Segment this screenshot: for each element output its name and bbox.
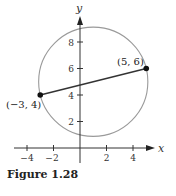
x-axis-label: x [158, 142, 165, 155]
x-tick-label: 4 [130, 153, 136, 163]
y-axis-label: y [75, 2, 83, 15]
x-tick-label: 2 [104, 153, 110, 163]
y-tick-label: 8 [68, 38, 74, 48]
point-a-label: (−3, 4) [6, 99, 41, 110]
chord-segment [40, 69, 146, 96]
x-axis-arrow-icon [146, 145, 155, 151]
x-tick-label: −2 [45, 153, 58, 163]
x-tick-label: −4 [20, 153, 34, 163]
y-axis-arrow-icon [77, 16, 83, 25]
circle-diagram: x y −4 −2 2 4 2 4 6 8 (−3, 4) (5, 6) [0, 0, 176, 196]
figure-caption: Figure 1.28 [7, 168, 78, 181]
y-tick-label: 4 [68, 91, 74, 101]
point-b [143, 66, 149, 72]
y-tick-label: 2 [68, 117, 74, 127]
y-tick-label: 6 [68, 64, 74, 74]
point-b-label: (5, 6) [117, 56, 144, 67]
point-a [37, 92, 43, 98]
